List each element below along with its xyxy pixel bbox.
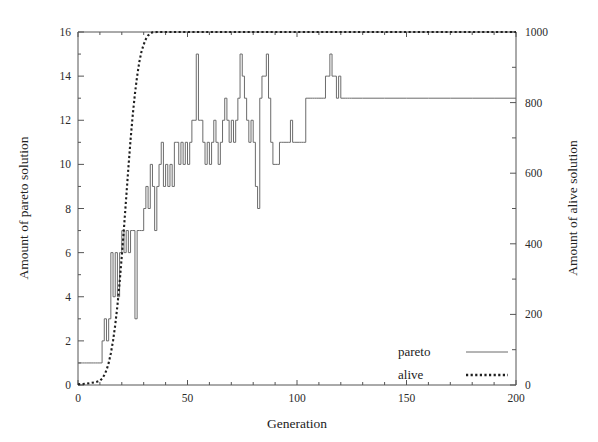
- x-tick-label: 150: [398, 392, 416, 404]
- y2-tick-label: 1000: [525, 26, 548, 38]
- y2-tick-label: 200: [525, 308, 543, 320]
- y-tick-label: 14: [60, 70, 72, 82]
- y-axis-tick-labels: 0246810121416: [60, 26, 72, 391]
- pareto-alive-line-chart: 050100150200 0246810121416 0200400600800…: [0, 0, 598, 442]
- y2-axis-ticks: [510, 32, 516, 385]
- y2-tick-label: 800: [525, 97, 543, 109]
- y-tick-label: 10: [60, 158, 72, 170]
- x-tick-label: 0: [75, 392, 81, 404]
- legend-label-alive: alive: [398, 367, 423, 382]
- y2-tick-label: 400: [525, 238, 543, 250]
- x-axis-tick-labels: 050100150200: [75, 392, 525, 404]
- y2-tick-label: 600: [525, 167, 543, 179]
- y2-tick-label: 0: [525, 379, 531, 391]
- y-tick-label: 4: [65, 291, 71, 303]
- series-line-pareto: [78, 54, 516, 363]
- x-tick-label: 100: [288, 392, 306, 404]
- y2-axis-tick-labels: 02004006008001000: [525, 26, 548, 391]
- y-tick-label: 0: [65, 379, 71, 391]
- y2-axis-title: Amount of alive solution: [565, 140, 580, 276]
- x-tick-label: 50: [182, 392, 194, 404]
- y-tick-label: 2: [65, 335, 71, 347]
- y-tick-label: 6: [65, 247, 71, 259]
- x-axis-title: Generation: [267, 416, 327, 431]
- y-axis-ticks: [78, 32, 84, 385]
- y-tick-label: 12: [60, 114, 72, 126]
- y-tick-label: 8: [65, 203, 71, 215]
- y-tick-label: 16: [60, 26, 72, 38]
- series-group: [78, 32, 516, 384]
- chart-legend: paretoalive: [398, 344, 508, 382]
- y-axis-title: Amount of pareto solution: [16, 136, 31, 279]
- x-tick-label: 200: [507, 392, 525, 404]
- legend-label-pareto: pareto: [398, 344, 430, 359]
